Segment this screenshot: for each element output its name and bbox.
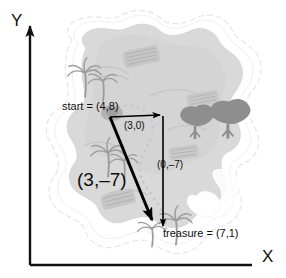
y-axis-label: Y — [11, 12, 22, 29]
horizontal-vector-label: (3,0) — [124, 121, 145, 131]
resultant-vector-label: (3,–7) — [77, 170, 127, 189]
treasure-map-figure: Y X start = (4,8) (3,0) (0,–7) (3,–7) tr… — [0, 0, 286, 278]
start-point-label: start = (4,8) — [62, 101, 119, 112]
x-axis-label: X — [262, 248, 273, 265]
vertical-vector-label: (0,–7) — [157, 160, 183, 170]
treasure-point-label: treasure = (7,1) — [163, 228, 239, 239]
map-canvas — [0, 0, 286, 278]
